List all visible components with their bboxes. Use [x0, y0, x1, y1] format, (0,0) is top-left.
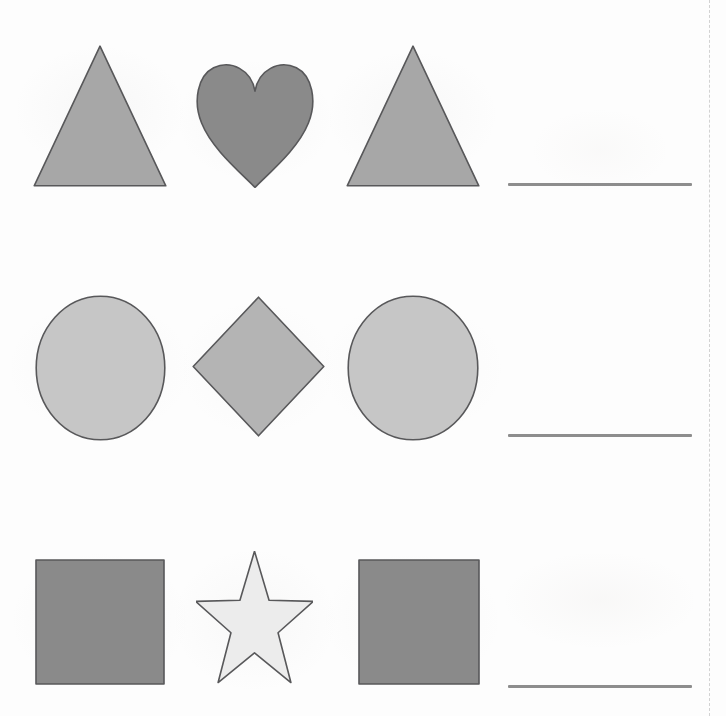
- answer-blank-line-row-2[interactable]: [508, 434, 692, 437]
- star-icon: [196, 551, 313, 691]
- answer-blank-line-row-1[interactable]: [508, 183, 692, 186]
- triangle-icon: [33, 45, 167, 187]
- scan-edge-marker: [709, 0, 710, 716]
- diamond-icon: [192, 296, 325, 437]
- triangle-icon: [346, 45, 480, 187]
- heart-icon: [195, 58, 315, 188]
- circle-icon: [35, 295, 166, 441]
- square-icon: [358, 559, 480, 685]
- square-icon: [35, 559, 165, 685]
- circle-icon: [347, 295, 479, 441]
- worksheet-page: [0, 0, 726, 716]
- answer-blank-line-row-3[interactable]: [508, 685, 692, 688]
